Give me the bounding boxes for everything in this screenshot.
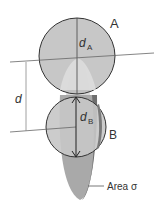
label-separation: d [15, 92, 22, 106]
label-diameter-a: d [79, 36, 86, 50]
label-a: A [110, 16, 119, 31]
label-diameter-b: d [80, 110, 87, 124]
label-b: B [109, 128, 117, 142]
label-diameter-a-sub: A [87, 43, 93, 52]
label-diameter-b-sub: B [88, 117, 93, 126]
label-area: Area σ [107, 181, 138, 192]
collision-diagram: A B d A d B d Area σ [0, 0, 162, 215]
